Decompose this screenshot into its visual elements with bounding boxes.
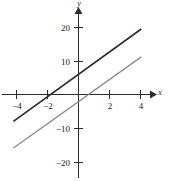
y-axis-arrow-icon xyxy=(75,7,83,14)
y-axis-label: y xyxy=(76,0,81,8)
series-line-lower xyxy=(13,57,141,148)
x-axis-label: x xyxy=(157,88,162,97)
y-tick-label-20: 20 xyxy=(61,23,71,33)
y-tick-label-neg20: −20 xyxy=(56,158,71,168)
coordinate-plane: −4 −2 2 4 20 10 −10 −20 x y xyxy=(0,0,171,181)
x-axis-arrow-icon xyxy=(150,91,157,99)
graph-figure: −4 −2 2 4 20 10 −10 −20 x y xyxy=(0,0,171,181)
y-tick-label-neg10: −10 xyxy=(56,124,71,134)
x-tick-label-pos2: 2 xyxy=(108,101,113,111)
x-tick-label-neg4: −4 xyxy=(12,101,22,111)
x-tick-label-neg2: −2 xyxy=(43,101,53,111)
y-tick-label-10: 10 xyxy=(61,57,71,67)
x-tick-label-pos4: 4 xyxy=(139,101,144,111)
series-line-upper xyxy=(13,29,141,121)
